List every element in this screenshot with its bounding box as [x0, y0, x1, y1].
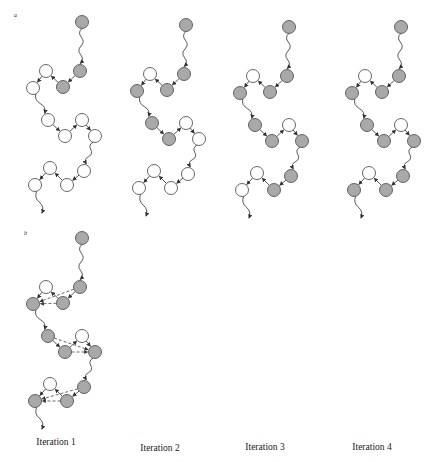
- bond-link: [38, 292, 42, 298]
- bond-link: [280, 180, 286, 185]
- empty-node: [76, 114, 89, 127]
- wavy-link: [243, 196, 250, 218]
- filled-node: [268, 184, 281, 197]
- bond-link: [277, 130, 284, 136]
- empty-node: [236, 184, 249, 197]
- filled-node: [361, 119, 374, 132]
- bond-link: [144, 176, 150, 183]
- bond-link: [157, 127, 164, 133]
- filled-node: [395, 21, 408, 34]
- empty-node: [148, 165, 161, 178]
- empty-node: [40, 281, 53, 294]
- bond-link: [40, 173, 46, 180]
- empty-node: [44, 162, 57, 175]
- filled-node: [74, 281, 87, 294]
- filled-node: [57, 81, 70, 94]
- bond-link: [357, 81, 361, 87]
- bond-link: [70, 125, 77, 131]
- bond-link: [405, 130, 409, 135]
- empty-node: [180, 117, 193, 130]
- bond-link: [372, 129, 379, 135]
- bond-link: [70, 341, 77, 347]
- bond-link: [53, 340, 60, 346]
- bond-link: [177, 178, 183, 183]
- bond-link: [86, 341, 90, 346]
- bond-link: [55, 173, 62, 180]
- empty-node: [27, 82, 40, 95]
- wavy-link: [355, 196, 362, 218]
- empty-node: [251, 167, 264, 180]
- empty-node: [247, 70, 260, 83]
- filled-node: [281, 70, 294, 83]
- empty-node: [42, 114, 55, 127]
- filled-node: [393, 70, 406, 83]
- panel-a-label: a: [14, 12, 17, 18]
- wavy-link: [85, 358, 93, 380]
- wavy-link: [79, 244, 83, 279]
- bond-link: [73, 175, 79, 180]
- filled-node: [376, 86, 389, 99]
- filled-node: [266, 135, 279, 148]
- bond-link: [172, 78, 179, 84]
- filled-node: [59, 346, 72, 359]
- filled-node: [57, 297, 70, 310]
- bond-link: [55, 389, 62, 396]
- empty-node: [363, 167, 376, 180]
- filled-node: [380, 184, 393, 197]
- bond-link: [51, 76, 58, 82]
- empty-node: [59, 130, 72, 143]
- panel-a: [27, 16, 421, 219]
- wavy-link: [183, 31, 187, 66]
- filled-node: [378, 135, 391, 148]
- wavy-link: [292, 147, 300, 169]
- iteration-4-label: Iteration 4: [352, 442, 391, 452]
- empty-node: [89, 130, 102, 143]
- bond-link: [247, 178, 253, 185]
- iteration-2-label: Iteration 2: [140, 443, 179, 453]
- bond-link: [68, 75, 75, 81]
- bond-link: [392, 180, 398, 185]
- bond-link: [374, 178, 381, 185]
- filled-node: [76, 232, 89, 245]
- empty-node: [359, 70, 372, 83]
- bond-link: [155, 79, 162, 85]
- wavy-link: [36, 407, 43, 429]
- wavy-link: [398, 33, 402, 68]
- dashed-link: [40, 303, 56, 304]
- wavy-link: [36, 94, 46, 113]
- iteration-3-label: Iteration 3: [245, 442, 284, 452]
- filled-node: [178, 68, 191, 81]
- bond-link: [262, 178, 269, 185]
- wavy-link: [36, 191, 43, 213]
- wavy-link: [85, 142, 93, 164]
- filled-node: [89, 346, 102, 359]
- empty-node: [76, 330, 89, 343]
- empty-node: [133, 182, 146, 195]
- wavy-link: [355, 99, 365, 118]
- bond-link: [260, 129, 267, 135]
- filled-node: [180, 19, 193, 32]
- wavy-link: [140, 97, 150, 116]
- wavy-link: [404, 147, 412, 169]
- bond-link: [359, 178, 365, 185]
- filled-node: [27, 298, 40, 311]
- filled-node: [131, 85, 144, 98]
- bond-link: [142, 79, 146, 85]
- bond-link: [190, 128, 194, 133]
- wavy-link: [243, 99, 253, 118]
- empty-node: [182, 168, 195, 181]
- bond-link: [245, 81, 249, 87]
- empty-node: [165, 182, 178, 195]
- filled-node: [76, 16, 89, 29]
- filled-node: [348, 184, 361, 197]
- filled-node: [234, 87, 247, 100]
- empty-node: [283, 119, 296, 132]
- bond-link: [293, 130, 297, 135]
- wavy-link: [79, 28, 83, 63]
- empty-node: [193, 133, 206, 146]
- filled-node: [283, 21, 296, 34]
- filled-node: [78, 381, 91, 394]
- filled-node: [146, 117, 159, 130]
- empty-node: [40, 65, 53, 78]
- panel-b: [27, 232, 102, 430]
